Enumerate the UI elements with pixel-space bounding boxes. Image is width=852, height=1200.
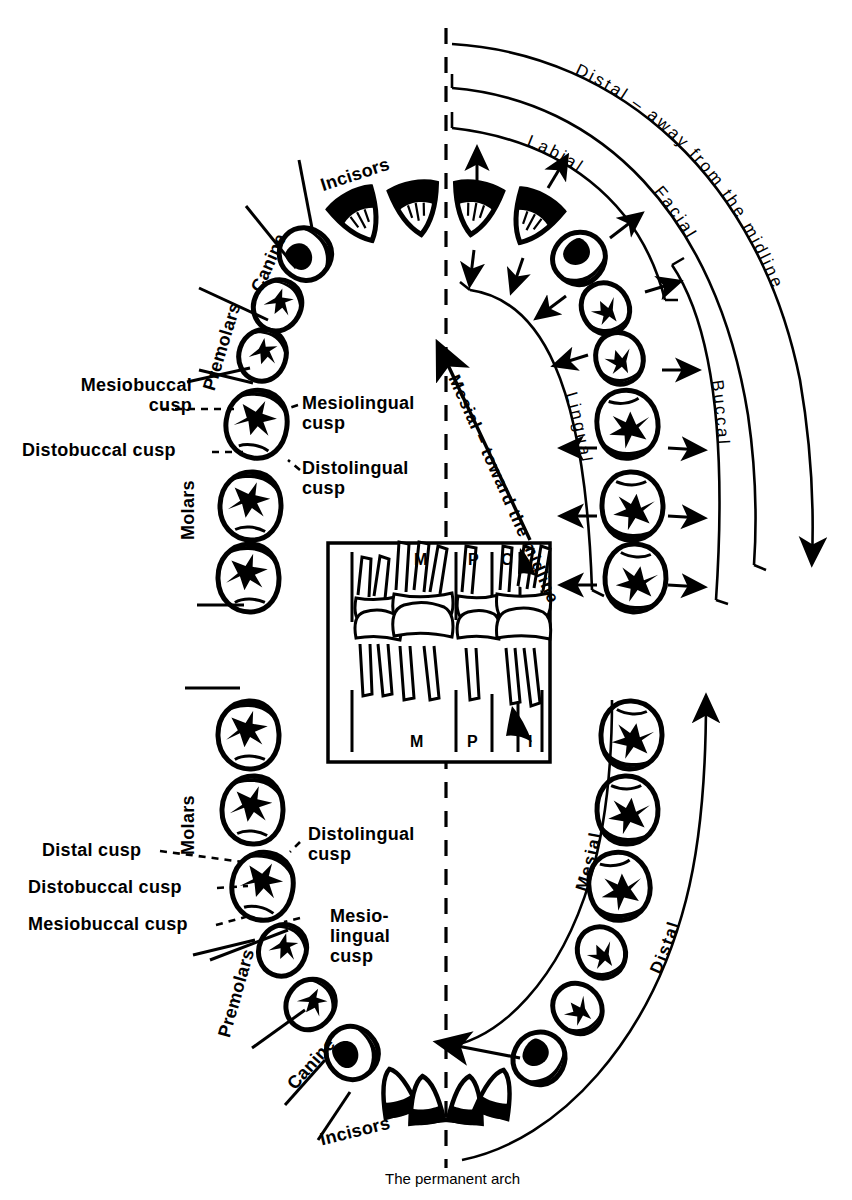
lower-mesiolingual-cusp-label: Mesio- lingual cusp (330, 906, 390, 966)
inset-bottom-label-i: I (528, 733, 532, 751)
inset-top-label-p: P (468, 551, 479, 569)
upper-distolingual-cusp-label: Distolingual cusp (302, 458, 409, 498)
upper-distobuccal-cusp-label: Distobuccal cusp (22, 440, 176, 460)
upper-mesiolingual-cusp-label: Mesiolingual cusp (302, 393, 415, 433)
lower-distobuccal-cusp-label: Distobuccal cusp (28, 877, 182, 897)
inset-top-label-m: M (414, 551, 427, 569)
upper-molars-label: Molars (178, 480, 198, 540)
upper-mesiobuccal-cusp-label: Mesiobuccal cusp (32, 375, 192, 415)
lower-distolingual-cusp-label: Distolingual cusp (308, 824, 415, 864)
lower-molars-label: Molars (178, 795, 198, 855)
dental-arch-figure: Distal – away from the midline Facial La… (0, 0, 852, 1200)
inset-bottom-label-m: M (410, 733, 423, 751)
inset-bottom-label-p: P (467, 733, 478, 751)
figure-caption: The permanent arch (385, 1170, 520, 1187)
lower-mesiobuccal-cusp-label: Mesiobuccal cusp (28, 914, 188, 934)
inset-top-label-c: C (501, 551, 513, 569)
lower-distal-cusp-label: Distal cusp (42, 840, 141, 860)
lateral-view-inset (0, 0, 852, 1200)
